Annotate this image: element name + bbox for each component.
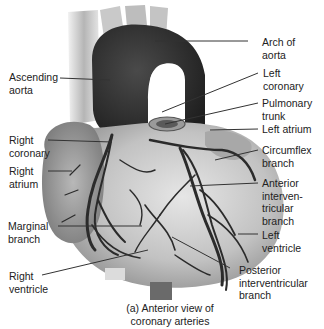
label-ascending-aorta: Ascending aorta [9,71,58,96]
label-posterior-interventricular-branch: Posterior interventricular branch [239,264,308,302]
label-right-coronary: Right coronary [9,134,50,159]
label-anterior-interventricular-branch: Anterior interven- tricular branch [262,177,303,227]
figure-caption: (a) Anterior view of coronary arteries [80,302,260,327]
label-pulmonary-trunk: Pulmonary trunk [262,97,312,122]
label-marginal-branch: Marginal branch [8,220,48,245]
label-arch-of-aorta: Arch of aorta [262,36,295,61]
label-left-coronary: Left coronary [263,67,304,92]
label-right-ventricle: Right ventricle [9,270,48,295]
label-left-atrium: Left atrium [262,123,312,136]
label-left-ventricle: Left ventricle [262,229,301,254]
label-right-atrium: Right atrium [9,165,38,190]
label-circumflex-branch: Circumflex branch [262,144,312,169]
inferior-vessel [150,282,172,300]
